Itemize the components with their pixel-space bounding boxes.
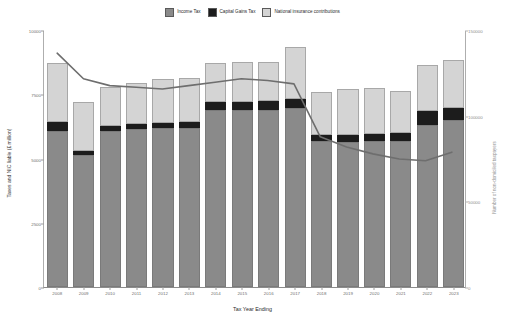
x-axis-tick-label: 2009	[79, 291, 89, 296]
bar-group[interactable]	[417, 30, 438, 287]
bar-segment[interactable]	[258, 62, 279, 102]
x-axis-tick-label: 2015	[237, 291, 247, 296]
bar-segment[interactable]	[417, 111, 438, 125]
bar-segment[interactable]	[73, 102, 94, 151]
bar-segment[interactable]	[152, 123, 173, 129]
x-axis-tick-mark	[110, 287, 111, 290]
bar-segment[interactable]	[311, 92, 332, 135]
bar-segment[interactable]	[285, 99, 306, 109]
bars-layer	[44, 31, 465, 287]
x-axis-tick-label: 2018	[317, 291, 327, 296]
y-axis-left-tick-mark	[41, 288, 44, 289]
bar-group[interactable]	[258, 30, 279, 287]
bar-segment[interactable]	[179, 78, 200, 122]
bar-segment[interactable]	[126, 124, 147, 129]
y-axis-left-title: Taxes and NIC liable (£ million)	[6, 129, 12, 198]
bar-segment[interactable]	[285, 47, 306, 98]
bar-segment[interactable]	[126, 83, 147, 124]
x-axis-tick-mark	[268, 287, 269, 290]
bar-segment[interactable]	[73, 155, 94, 287]
y-axis-left-tick-mark	[41, 95, 44, 96]
bar-segment[interactable]	[443, 108, 464, 120]
x-axis-tick-mark	[321, 287, 322, 290]
x-axis-tick-mark	[215, 287, 216, 290]
bar-segment[interactable]	[417, 125, 438, 287]
legend-swatch-icon	[208, 8, 217, 17]
x-axis-tick-label: 2010	[105, 291, 115, 296]
x-axis-tick-mark	[295, 287, 296, 290]
bar-group[interactable]	[311, 30, 332, 287]
bar-segment[interactable]	[337, 89, 358, 135]
y-axis-left-tick-mark	[41, 31, 44, 32]
bar-group[interactable]	[232, 30, 253, 287]
x-axis-tick-mark	[427, 287, 428, 290]
x-axis-tick-label: 2008	[52, 291, 62, 296]
x-axis-tick-mark	[136, 287, 137, 290]
x-axis-tick-label: 2019	[343, 291, 353, 296]
legend-entry[interactable]: Capital Gains Tax	[208, 8, 256, 17]
bar-group[interactable]	[126, 30, 147, 287]
x-axis-title: Tax Year Ending	[0, 306, 505, 312]
bar-segment[interactable]	[364, 141, 385, 287]
y-axis-right-tick-mark	[465, 31, 468, 32]
bar-group[interactable]	[152, 30, 173, 287]
bar-segment[interactable]	[47, 122, 68, 130]
x-axis-tick-mark	[242, 287, 243, 290]
bar-segment[interactable]	[258, 110, 279, 287]
legend-entry[interactable]: Income Tax	[165, 8, 200, 17]
legend-entry[interactable]: National insurance contributions	[262, 8, 339, 17]
bar-segment[interactable]	[179, 128, 200, 287]
bar-segment[interactable]	[47, 63, 68, 122]
bar-group[interactable]	[443, 30, 464, 287]
bar-segment[interactable]	[100, 126, 121, 131]
bar-segment[interactable]	[443, 60, 464, 108]
bar-segment[interactable]	[258, 101, 279, 109]
bar-segment[interactable]	[232, 102, 253, 110]
bar-segment[interactable]	[364, 134, 385, 141]
bar-segment[interactable]	[126, 129, 147, 287]
legend-swatch-icon	[262, 8, 271, 17]
bar-group[interactable]	[100, 30, 121, 287]
bar-segment[interactable]	[311, 141, 332, 287]
x-axis-tick-label: 2021	[396, 291, 406, 296]
y-axis-right-tick-mark	[465, 202, 468, 203]
bar-segment[interactable]	[205, 102, 226, 110]
bar-group[interactable]	[285, 30, 306, 287]
bar-segment[interactable]	[73, 151, 94, 155]
bar-segment[interactable]	[232, 110, 253, 287]
bar-segment[interactable]	[364, 88, 385, 134]
bar-segment[interactable]	[390, 133, 411, 140]
bar-group[interactable]	[205, 30, 226, 287]
bar-segment[interactable]	[232, 62, 253, 102]
bar-group[interactable]	[179, 30, 200, 287]
legend-label: Capital Gains Tax	[220, 10, 256, 15]
bar-segment[interactable]	[152, 128, 173, 287]
bar-segment[interactable]	[100, 131, 121, 287]
bar-segment[interactable]	[179, 122, 200, 128]
bar-segment[interactable]	[390, 91, 411, 133]
bar-group[interactable]	[390, 30, 411, 287]
bar-segment[interactable]	[152, 79, 173, 123]
bar-segment[interactable]	[205, 110, 226, 287]
x-axis-tick-mark	[400, 287, 401, 290]
bar-group[interactable]	[47, 30, 68, 287]
bar-segment[interactable]	[205, 63, 226, 103]
bar-segment[interactable]	[100, 87, 121, 126]
x-axis-tick-label: 2017	[290, 291, 300, 296]
bar-segment[interactable]	[390, 141, 411, 287]
bar-segment[interactable]	[311, 135, 332, 141]
bar-segment[interactable]	[443, 120, 464, 287]
bar-segment[interactable]	[47, 131, 68, 287]
legend-label: National insurance contributions	[274, 10, 339, 15]
x-axis-tick-mark	[348, 287, 349, 290]
bar-segment[interactable]	[337, 135, 358, 141]
bar-segment[interactable]	[285, 108, 306, 287]
x-axis-tick-label: 2011	[132, 291, 141, 296]
bar-group[interactable]	[337, 30, 358, 287]
chart-legend: Income TaxCapital Gains TaxNational insu…	[0, 8, 505, 17]
bar-segment[interactable]	[417, 65, 438, 111]
legend-swatch-icon	[165, 8, 174, 17]
bar-segment[interactable]	[337, 142, 358, 287]
bar-group[interactable]	[364, 30, 385, 287]
bar-group[interactable]	[73, 30, 94, 287]
